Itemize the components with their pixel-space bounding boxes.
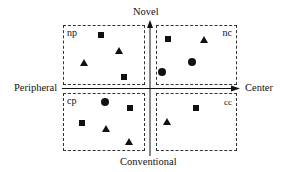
axis-label-conventional: Conventional bbox=[120, 156, 177, 167]
circle-marker-icon bbox=[101, 98, 109, 106]
quadrant-label-cp: cp bbox=[67, 96, 76, 106]
square-marker-icon bbox=[98, 32, 104, 38]
circle-marker-icon bbox=[158, 68, 166, 76]
axis-label-center: Center bbox=[245, 82, 273, 93]
square-marker-icon bbox=[121, 74, 127, 80]
square-marker-icon bbox=[79, 120, 85, 126]
triangle-marker-icon bbox=[163, 118, 171, 125]
triangle-marker-icon bbox=[115, 47, 123, 54]
quadrant-nc: nc bbox=[156, 25, 237, 85]
quadrant-label-cc: cc bbox=[224, 97, 232, 107]
arrow-up-icon bbox=[147, 20, 153, 28]
axis-label-novel: Novel bbox=[133, 6, 159, 17]
quadrant-label-nc: nc bbox=[223, 28, 232, 38]
quadrant-label-np: np bbox=[67, 28, 77, 38]
arrow-right-icon bbox=[231, 86, 240, 92]
triangle-marker-icon bbox=[200, 36, 208, 43]
square-marker-icon bbox=[127, 105, 133, 111]
triangle-marker-icon bbox=[125, 138, 133, 145]
square-marker-icon bbox=[165, 36, 171, 42]
circle-marker-icon bbox=[188, 58, 196, 66]
triangle-marker-icon bbox=[80, 59, 88, 66]
square-marker-icon bbox=[193, 105, 199, 111]
quadrant-np: np bbox=[63, 25, 145, 85]
axis-label-peripheral: Peripheral bbox=[14, 82, 57, 93]
triangle-marker-icon bbox=[102, 125, 110, 132]
